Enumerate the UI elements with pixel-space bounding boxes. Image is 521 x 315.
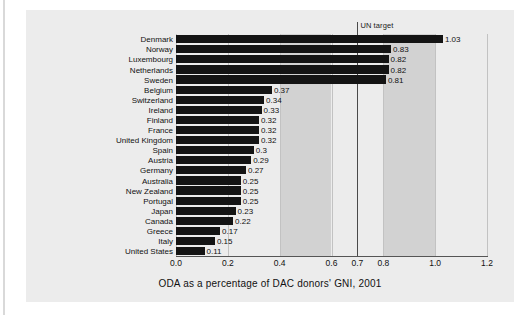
bar-row: Greece0.17: [176, 226, 487, 237]
category-label: Ireland: [149, 105, 173, 114]
x-axis-tick-label: 0.2: [222, 258, 234, 268]
value-label: 0.23: [238, 206, 254, 215]
bar-row: Japan0.23: [176, 206, 487, 217]
bar: [176, 146, 254, 154]
bar-row: Austria0.29: [176, 155, 487, 166]
chart-panel: UN targetDenmark1.03Norway0.83Luxembourg…: [26, 10, 514, 302]
bar: [176, 116, 259, 124]
value-label: 0.29: [253, 156, 269, 165]
category-label: Norway: [146, 45, 173, 54]
gridline: [487, 34, 488, 256]
bar-row: France0.32: [176, 125, 487, 136]
bar-row: Belgium0.37: [176, 84, 487, 95]
un-target-label: UN target: [360, 21, 393, 30]
category-label: Australia: [142, 176, 173, 185]
value-label: 0.25: [243, 186, 259, 195]
value-label: 0.37: [274, 85, 290, 94]
category-label: Greece: [147, 227, 173, 236]
value-label: 0.11: [207, 247, 222, 256]
category-label: Sweden: [144, 75, 173, 84]
bar-row: Australia0.25: [176, 175, 487, 186]
bar-row: Germany0.27: [176, 165, 487, 176]
value-label: 0.27: [248, 166, 264, 175]
value-label: 0.34: [266, 95, 282, 104]
value-label: 0.82: [391, 65, 407, 74]
value-label: 0.82: [391, 55, 407, 64]
value-label: 0.22: [235, 216, 251, 225]
value-label: 0.17: [222, 227, 238, 236]
category-label: Belgium: [144, 85, 173, 94]
bar-row: Sweden0.81: [176, 74, 487, 85]
category-label: Luxembourg: [129, 55, 173, 64]
value-label: 0.3: [256, 146, 267, 155]
bar: [176, 217, 233, 225]
bar: [176, 35, 443, 43]
x-axis-tick-label: 1.0: [429, 258, 441, 268]
bar-row: Luxembourg0.82: [176, 54, 487, 65]
bar: [176, 237, 215, 245]
value-label: 0.32: [261, 116, 277, 125]
x-axis-tick-label: 0.4: [274, 258, 286, 268]
bar: [176, 96, 264, 104]
x-axis-tick-label: 0.7: [351, 258, 363, 268]
bar: [176, 247, 205, 255]
bar-row: Spain0.3: [176, 145, 487, 156]
bar-row: United States0.11: [176, 246, 487, 257]
value-label: 0.33: [264, 105, 280, 114]
bar: [176, 45, 391, 53]
bar-row: Finland0.32: [176, 115, 487, 126]
category-label: France: [148, 126, 173, 135]
bar: [176, 136, 259, 144]
category-label: Netherlands: [130, 65, 173, 74]
value-label: 0.15: [217, 237, 233, 246]
bar-row: United Kingdom0.32: [176, 135, 487, 146]
bar-row: Denmark1.03: [176, 34, 487, 45]
category-label: Austria: [148, 156, 173, 165]
bar: [176, 186, 241, 194]
plot-area: UN targetDenmark1.03Norway0.83Luxembourg…: [176, 34, 487, 256]
category-label: Switzerland: [132, 95, 173, 104]
x-axis-tick-label: 1.2: [481, 258, 493, 268]
category-label: United States: [125, 247, 173, 256]
category-label: Denmark: [141, 35, 173, 44]
bar: [176, 86, 272, 94]
bar-row: Portugal0.25: [176, 195, 487, 206]
value-label: 0.25: [243, 196, 259, 205]
bar: [176, 207, 236, 215]
bar: [176, 106, 262, 114]
value-label: 0.25: [243, 176, 259, 185]
bar-row: Italy0.15: [176, 236, 487, 247]
category-label: Germany: [140, 166, 173, 175]
value-label: 0.83: [393, 45, 409, 54]
category-label: Canada: [145, 216, 173, 225]
category-label: Italy: [158, 237, 173, 246]
bar: [176, 227, 220, 235]
category-label: Spain: [153, 146, 173, 155]
bar: [176, 65, 389, 73]
x-axis-tick-label: 0.8: [377, 258, 389, 268]
bar: [176, 176, 241, 184]
x-axis-tick-label: 0.6: [326, 258, 338, 268]
bar: [176, 126, 259, 134]
x-axis-line: [176, 256, 488, 257]
value-label: 0.32: [261, 126, 277, 135]
page-left-rule: [3, 0, 5, 315]
value-label: 0.32: [261, 136, 277, 145]
x-axis-tick-label: 0.0: [170, 258, 182, 268]
category-label: Finland: [147, 116, 173, 125]
bar-row: Netherlands0.82: [176, 64, 487, 75]
figure: UN targetDenmark1.03Norway0.83Luxembourg…: [0, 0, 521, 315]
bar-row: New Zealand0.25: [176, 185, 487, 196]
category-label: Japan: [151, 206, 173, 215]
value-label: 0.81: [388, 75, 404, 84]
chart-caption: ODA as a percentage of DAC donors' GNI, …: [26, 278, 514, 289]
bar-row: Canada0.22: [176, 216, 487, 227]
bar: [176, 55, 389, 63]
category-label: Portugal: [143, 196, 173, 205]
category-label: New Zealand: [126, 186, 173, 195]
bar: [176, 197, 241, 205]
bar-row: Norway0.83: [176, 44, 487, 55]
value-label: 1.03: [445, 35, 461, 44]
bar: [176, 156, 251, 164]
bar: [176, 75, 386, 83]
